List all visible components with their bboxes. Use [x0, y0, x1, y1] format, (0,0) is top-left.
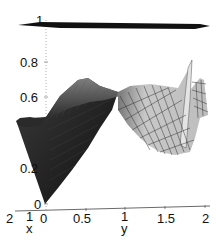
light-surface-face [118, 60, 208, 155]
y-tick-2: 2 [202, 212, 209, 225]
y-axis-label: y [121, 222, 128, 235]
top-plane [18, 22, 210, 29]
z-tick-0.6: 0.6 [20, 91, 38, 104]
x-axis-label: x [26, 222, 33, 235]
z-tick-0.8: 0.8 [20, 56, 38, 69]
x-tick-2: 2 [6, 212, 13, 225]
z-tick-0.2: 0.2 [20, 162, 38, 175]
y-tick-1.5: 1.5 [157, 212, 175, 225]
y-tick-0: 0 [40, 212, 47, 225]
y-tick-0.5: 0.5 [73, 212, 91, 225]
z-tick-1: 1 [36, 14, 43, 27]
z-tick-0: 0 [34, 198, 41, 211]
